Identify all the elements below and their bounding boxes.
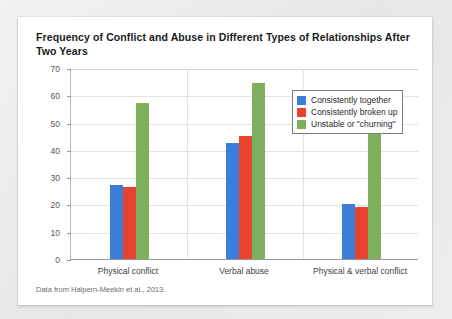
legend-item[interactable]: Consistently broken up (297, 106, 397, 118)
x-axis-category-label: Verbal abuse (219, 266, 269, 276)
y-axis-tick (67, 69, 71, 70)
bar (368, 127, 381, 259)
y-axis-tick-label: 70 (51, 64, 60, 74)
y-axis-tick-label: 10 (51, 228, 60, 238)
y-axis-tick-label: 40 (51, 146, 60, 156)
legend-label: Consistently together (311, 95, 391, 105)
bar (239, 136, 252, 259)
legend-item[interactable]: Consistently together (297, 94, 397, 106)
category-separator (187, 69, 188, 259)
legend-item[interactable]: Unstable or "churning" (297, 118, 397, 130)
y-axis-tick-label: 50 (51, 119, 60, 129)
legend-swatch-icon (297, 120, 306, 129)
x-axis-category-labels: Physical conflictVerbal abusePhysical & … (70, 262, 418, 280)
y-axis-tick (67, 178, 71, 179)
bar (355, 207, 368, 259)
y-axis-tick (67, 233, 71, 234)
y-axis-tick (67, 151, 71, 152)
source-caption: Data from Halpern-Meekin et al., 2013. (36, 285, 165, 294)
page-background: Frequency of Conflict and Abuse in Diffe… (0, 0, 452, 319)
legend-label: Unstable or "churning" (311, 119, 395, 129)
y-axis-tick-label: 60 (51, 91, 60, 101)
x-axis-category-label: Physical conflict (98, 266, 158, 276)
y-axis-tick-labels: 010203040506070 (36, 69, 64, 260)
y-axis-tick-label: 0 (55, 255, 60, 265)
y-axis-tick (67, 124, 71, 125)
legend-swatch-icon (297, 108, 306, 117)
bar (123, 187, 136, 259)
bar-group (110, 69, 149, 259)
chart-title: Frequency of Conflict and Abuse in Diffe… (36, 30, 414, 58)
chart-legend: Consistently togetherConsistently broken… (292, 90, 403, 134)
x-axis-category-label: Physical & verbal conflict (313, 266, 407, 276)
bar (110, 185, 123, 259)
bar-chart: 010203040506070 Physical conflictVerbal … (36, 69, 418, 281)
legend-label: Consistently broken up (311, 107, 397, 117)
bar-group (226, 69, 265, 259)
bar (136, 103, 149, 259)
y-axis-tick-label: 30 (51, 173, 60, 183)
bar (342, 204, 355, 259)
y-axis-tick (67, 260, 71, 261)
y-axis-tick (67, 96, 71, 97)
y-axis-tick (67, 205, 71, 206)
legend-swatch-icon (297, 96, 306, 105)
bar (252, 83, 265, 259)
bar (226, 143, 239, 259)
figure-card: Frequency of Conflict and Abuse in Diffe… (18, 17, 432, 305)
y-axis-tick-label: 20 (51, 200, 60, 210)
